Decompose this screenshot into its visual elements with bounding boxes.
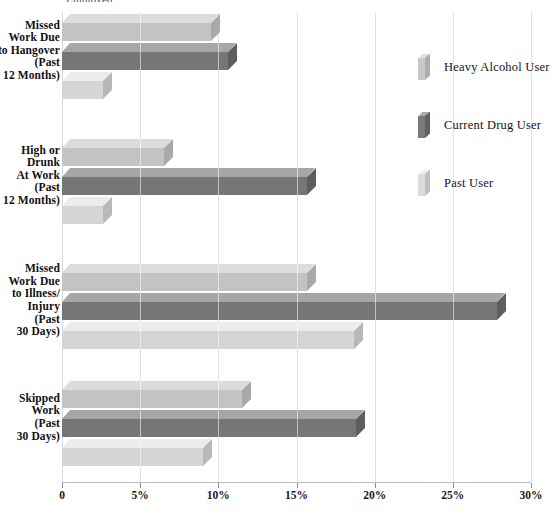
category-label-line: 12 Months)	[0, 69, 60, 82]
bar-front-face	[62, 81, 103, 99]
bar-top-face	[62, 381, 250, 390]
category-label-line: (Past	[0, 56, 60, 69]
bar-top-face	[62, 139, 172, 148]
bar-top-face	[62, 168, 316, 177]
x-tick-25%	[453, 483, 454, 488]
x-tick-30%	[531, 483, 532, 488]
x-tick-label: 15%	[285, 489, 308, 501]
category-label-line: Drunk	[0, 156, 60, 169]
legend-label: Current Drug User	[444, 118, 541, 133]
x-tick-label: 20%	[363, 489, 386, 501]
bar-front-face	[62, 206, 103, 224]
category-label-line: to Hangover	[0, 44, 60, 57]
legend-swatch-lface	[418, 174, 425, 196]
category-label-line: Missed	[0, 262, 60, 275]
bar-top-face	[62, 43, 236, 52]
bar-top-face	[62, 439, 211, 448]
x-tick-15%	[297, 483, 298, 488]
category-label-line: Work Due	[0, 275, 60, 288]
category-label-4: SkippedWork(Past30 Days)	[0, 392, 60, 442]
bar-front-face	[62, 419, 356, 437]
x-tick-0	[62, 483, 63, 488]
legend-swatch-lface	[418, 58, 425, 80]
category-label-line: 30 Days)	[0, 325, 60, 338]
category-label-line: Skipped	[0, 392, 60, 405]
bar-front-face	[62, 52, 228, 70]
category-label-line: to Illness/	[0, 287, 60, 300]
x-tick-label: 5%	[132, 489, 149, 501]
bar-front-face	[62, 390, 242, 408]
x-tick-10%	[218, 483, 219, 488]
legend-swatch-lside	[425, 53, 430, 80]
x-tick-5%	[140, 483, 141, 488]
grouped-bar-chart: Employed MissedWork Dueto Hangover(Past1…	[0, 0, 557, 521]
category-label-line: (Past	[0, 417, 60, 430]
category-label-line: 12 Months)	[0, 194, 60, 207]
gridline-30%	[531, 12, 532, 482]
bar-top-face	[62, 322, 362, 331]
legend-swatch-lface	[418, 116, 425, 138]
category-label-line: Work Due	[0, 31, 60, 44]
legend-swatch-lside	[425, 111, 430, 138]
category-label-line: Injury	[0, 300, 60, 313]
category-label-line: Work	[0, 404, 60, 417]
bar-front-face	[62, 177, 307, 195]
bar-front-face	[62, 302, 497, 320]
bar-front-face	[62, 273, 307, 291]
legend-swatch-icon	[418, 112, 430, 142]
category-label-3: MissedWork Dueto Illness/Injury(Past30 D…	[0, 262, 60, 338]
bar-top-face	[62, 410, 364, 419]
legend-label: Heavy Alcohol User	[444, 60, 550, 75]
bar-front-face	[62, 448, 203, 466]
bar-top-face	[62, 293, 505, 302]
gridline-25%	[453, 12, 454, 482]
x-tick-label: 10%	[207, 489, 230, 501]
category-label-1: MissedWork Dueto Hangover(Past12 Months)	[0, 19, 60, 82]
bar-top-face	[62, 264, 316, 273]
bar-top-face	[62, 14, 219, 23]
bar-front-face	[62, 23, 211, 41]
bar-front-face	[62, 148, 164, 166]
legend-swatch-icon	[418, 170, 430, 200]
gridline-20%	[375, 12, 376, 482]
legend-swatch-icon	[418, 54, 430, 84]
category-label-line: (Past	[0, 313, 60, 326]
x-tick-20%	[375, 483, 376, 488]
x-tick-label: 0	[59, 489, 65, 501]
category-label-line: (Past	[0, 181, 60, 194]
category-label-line: High or	[0, 144, 60, 157]
category-label-2: High orDrunkAt Work(Past12 Months)	[0, 144, 60, 207]
x-tick-label: 25%	[441, 489, 464, 501]
x-tick-label: 30%	[520, 489, 543, 501]
category-label-line: At Work	[0, 169, 60, 182]
legend-label: Past User	[444, 176, 493, 191]
legend-swatch-lside	[425, 169, 430, 196]
bar-front-face	[62, 331, 354, 349]
category-label-line: Missed	[0, 19, 60, 32]
category-label-line: 30 Days)	[0, 430, 60, 443]
